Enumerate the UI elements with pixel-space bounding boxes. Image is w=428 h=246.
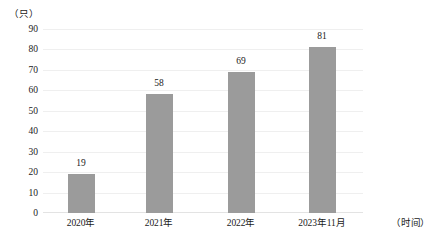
x-tick-label-2021: 2021年 xyxy=(114,216,204,230)
y-tick-label: 0 xyxy=(4,208,38,218)
x-axis-unit-label: （时间） xyxy=(391,216,428,230)
y-tick-label: 80 xyxy=(4,44,38,54)
y-tick-label: 50 xyxy=(4,106,38,116)
x-tick-label-2023-11: 2023年11月 xyxy=(277,216,367,230)
bar-2022[interactable] xyxy=(228,72,255,213)
y-axis-tick-labels: 90 80 70 60 50 40 30 20 10 0 xyxy=(0,29,38,213)
bar-2021[interactable] xyxy=(146,94,173,213)
y-tick-label: 10 xyxy=(4,188,38,198)
y-tick-label: 40 xyxy=(4,126,38,136)
bar-2020[interactable] xyxy=(68,174,95,213)
bar-value-label: 58 xyxy=(129,78,189,89)
x-tick-label-2022: 2022年 xyxy=(196,216,286,230)
y-tick-label: 60 xyxy=(4,85,38,95)
bar-value-label: 69 xyxy=(211,56,271,67)
y-tick-label: 30 xyxy=(4,147,38,157)
y-tick-label: 90 xyxy=(4,24,38,34)
x-tick-label-2020: 2020年 xyxy=(36,216,126,230)
y-tick-label: 20 xyxy=(4,167,38,177)
bar-2023-11[interactable] xyxy=(309,47,336,213)
gridline xyxy=(43,29,363,30)
x-axis-tick-labels: 2020年 2021年 2022年 2023年11月 （时间） xyxy=(43,216,406,236)
y-tick-label: 70 xyxy=(4,65,38,75)
y-axis-unit-label: （只） xyxy=(9,9,38,20)
bar-value-label: 81 xyxy=(292,31,352,42)
plot-area: 19 58 69 81 xyxy=(43,29,363,213)
bar-value-label: 19 xyxy=(51,158,111,169)
